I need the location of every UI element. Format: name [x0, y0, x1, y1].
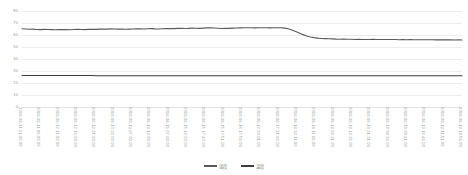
line-chart: 80706050403020100 2018-08-11 21:00:00201…	[0, 0, 468, 175]
y-axis-tick-label: 60	[13, 33, 18, 37]
x-axis-tick-label: 2018-08-13 07:00:00	[128, 107, 132, 147]
x-axis-tick-label: 2018-08-18 12:26:00	[348, 107, 352, 147]
x-axis-tick-labels: 2018-08-11 21:00:002018-08-11 06:00:0020…	[22, 107, 462, 159]
legend-item[interactable]: 湿度	[204, 164, 227, 169]
x-axis-tick-label: 2018-08-15 07:00:00	[165, 107, 169, 147]
x-axis-tick-label: 2018-08-18 02:21:00	[330, 107, 334, 147]
x-axis-tick-label: 2018-08-19 18:56:00	[458, 107, 462, 147]
x-axis-tick-label: 2018-08-19 08:36:00	[385, 107, 389, 147]
y-axis-tick-label: 30	[13, 69, 18, 73]
x-axis-tick-label: 2018-08-16 17:56:00	[238, 107, 242, 147]
y-axis-tick-label: 20	[13, 81, 18, 85]
y-axis-tick-label: 40	[13, 57, 18, 61]
y-axis-tick-label: 80	[13, 9, 18, 13]
x-axis-tick-label: 2018-08-19 21:31:00	[366, 107, 370, 147]
x-axis-tick-label: 2018-08-12 11:00:00	[55, 107, 59, 147]
legend-swatch-icon	[204, 165, 217, 167]
chart-legend: 湿度温度	[0, 160, 468, 172]
legend-label: 温度	[256, 164, 264, 169]
x-axis-tick-label: 2018-08-15 12:00:00	[183, 107, 187, 147]
x-axis-tick-label: 2018-08-15 17:51:00	[220, 107, 224, 147]
x-axis-tick-label: 2018-08-18 11:16:00	[311, 107, 315, 147]
x-axis-tick-label: 2018-08-17 20:01:00	[256, 107, 260, 147]
y-axis-tick-labels: 80706050403020100	[0, 11, 20, 107]
x-axis-tick-label: 2018-08-12 16:00:00	[73, 107, 77, 147]
x-axis-tick-label: 2018-08-19 11:51:00	[440, 107, 444, 147]
legend-swatch-icon	[241, 165, 254, 167]
legend-item[interactable]: 温度	[241, 164, 264, 169]
legend-label: 湿度	[219, 164, 227, 169]
x-axis-tick-label: 2018-08-18 22:11:00	[293, 107, 297, 147]
x-axis-tick-label: 2018-08-11 06:00:00	[36, 107, 40, 147]
y-axis-tick-label: 10	[13, 93, 18, 97]
x-axis-tick-label: 2018-08-19 09:41:00	[403, 107, 407, 147]
plot-area	[22, 11, 462, 107]
y-axis-tick-label: 50	[13, 45, 18, 49]
series-lines	[22, 11, 462, 107]
x-axis-tick-label: 2018-08-12 21:00:00	[91, 107, 95, 147]
series-line	[22, 28, 462, 40]
x-axis-tick-label: 2018-08-13 12:00:00	[146, 107, 150, 147]
x-axis-tick-label: 2018-08-13 02:00:00	[110, 107, 114, 147]
x-axis-tick-label: 2018-08-15 17:40:00	[201, 107, 205, 147]
y-axis-tick-label: 70	[13, 21, 18, 25]
x-axis-tick-label: 2018-08-11 21:00:00	[18, 107, 22, 147]
x-axis-tick-label: 2018-08-19 16:46:00	[421, 107, 425, 147]
x-axis-tick-label: 2018-08-17 21:06:00	[275, 107, 279, 147]
